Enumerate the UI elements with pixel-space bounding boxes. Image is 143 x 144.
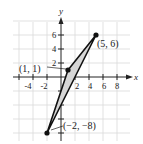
vertex-point: [44, 130, 49, 135]
y-axis-label: y: [58, 6, 63, 16]
coordinate-plane: x y -4 -2 2 4 6 8 2 4 6 (1, 1) (5, 6) (−…: [0, 0, 143, 144]
vertex-point: [93, 32, 98, 37]
y-axis-arrow-icon: [59, 17, 64, 24]
x-axis-label: x: [133, 72, 138, 82]
x-tick-label: 2: [75, 81, 79, 91]
vertex-label: (−2, −8): [63, 120, 96, 132]
x-tick-label: -2: [40, 81, 47, 91]
x-tick-label: 6: [102, 81, 106, 91]
y-tick-label: 6: [52, 30, 56, 40]
vertex-label: (5, 6): [97, 38, 119, 50]
leader-line: [47, 67, 66, 69]
y-tick-label: 2: [52, 58, 56, 68]
x-tick-label: 4: [88, 81, 93, 91]
x-tick-label: -4: [24, 81, 32, 91]
vertex-point: [65, 67, 70, 72]
x-axis-arrow-icon: [126, 75, 133, 80]
x-tick-label: 8: [115, 81, 119, 91]
vertex-label: (1, 1): [19, 63, 41, 75]
